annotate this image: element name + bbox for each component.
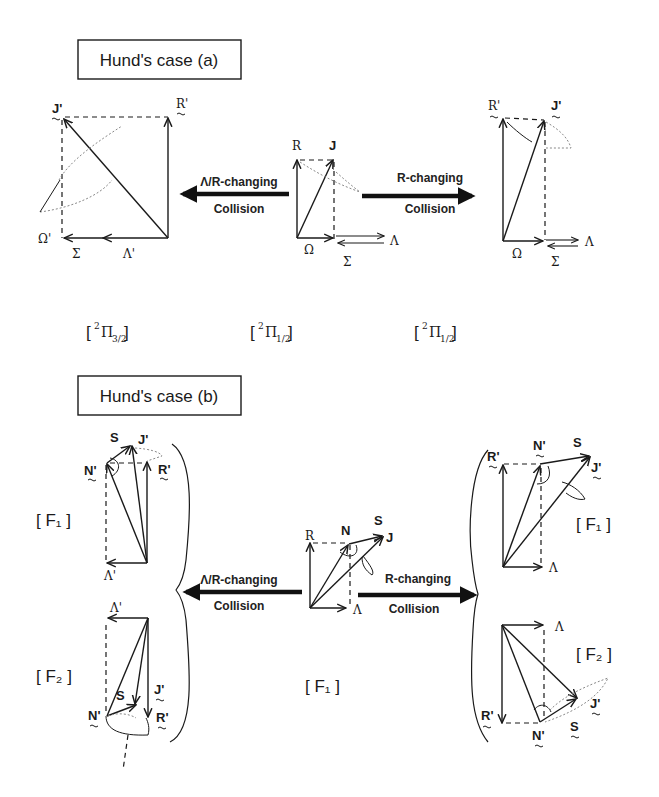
label-N-prime: N' bbox=[84, 463, 96, 478]
svg-text:[: [ bbox=[250, 323, 255, 342]
svg-text:]: ] bbox=[288, 323, 293, 342]
label-Lambda-prime: Λ' bbox=[103, 569, 116, 583]
label-S: S bbox=[116, 688, 125, 703]
label-N-prime: N' bbox=[532, 728, 544, 743]
case-b-right-bottom-F2: Λ R' N' S J' [ F₂ ] bbox=[481, 620, 612, 747]
label-N: N bbox=[341, 523, 350, 538]
case-b-section: Hund's case (b) S J' N' R' Λ' [ F₁ ] bbox=[36, 376, 612, 770]
case-b-right-collision-arrow: R-changing Collision bbox=[358, 572, 474, 616]
case-b-title-box: Hund's case (b) bbox=[78, 376, 241, 415]
label-R-prime: R' bbox=[158, 462, 170, 477]
label-Omega-prime: Ω' bbox=[38, 232, 51, 246]
state-F1: [ F₁ ] bbox=[576, 515, 611, 534]
label-Sigma: Σ bbox=[551, 255, 559, 269]
label-R-prime: R' bbox=[156, 710, 168, 725]
label-R-prime: R' bbox=[487, 449, 499, 464]
case-a-state-right: [ 2 Π 1/2 ] bbox=[414, 321, 457, 344]
svg-text:]: ] bbox=[452, 323, 457, 342]
label-J-prime: J' bbox=[591, 460, 601, 475]
J-vector bbox=[64, 119, 168, 238]
label-S: S bbox=[573, 435, 582, 450]
case-a-state-left: [ 2 Π 3/2 ] bbox=[86, 321, 129, 344]
arrow-label-line2: Collision bbox=[214, 202, 265, 216]
label-Omega: Ω bbox=[512, 247, 522, 261]
label-Sigma: Σ bbox=[343, 255, 351, 269]
case-a-left-collision-arrow: Λ/R-changing Collision bbox=[183, 175, 289, 216]
svg-text:2: 2 bbox=[258, 321, 264, 331]
svg-text:[: [ bbox=[414, 323, 419, 342]
label-S: S bbox=[570, 719, 579, 734]
hunds-case-diagram: Hund's case (a) J' R' Ω' Σ Λ' Λ/R-changi… bbox=[0, 0, 659, 797]
label-J-prime: J' bbox=[590, 696, 600, 711]
label-R-prime: R' bbox=[176, 97, 188, 111]
svg-text:2: 2 bbox=[422, 321, 428, 331]
label-Lambda: Λ bbox=[554, 620, 564, 634]
label-Lambda-prime: Λ' bbox=[122, 247, 135, 261]
label-J: J bbox=[386, 530, 393, 545]
label-J-prime: J' bbox=[52, 101, 62, 116]
case-a-left-vector-diagram: J' R' Ω' Σ Λ' bbox=[38, 97, 188, 261]
case-b-center-F1: R N S J Λ [ F₁ ] bbox=[305, 513, 393, 696]
label-J: J bbox=[329, 138, 336, 153]
case-b-left-bottom-F2: Λ' S J' N' R' [ F₂ ] bbox=[36, 601, 168, 770]
label-N-prime: N' bbox=[88, 708, 100, 723]
state-F1: [ F₁ ] bbox=[36, 511, 71, 530]
label-J-prime: J' bbox=[551, 98, 561, 113]
label-Lambda: Λ bbox=[389, 234, 399, 248]
label-Sigma: Σ bbox=[72, 247, 80, 261]
arrow-label-line1: Λ/R-changing bbox=[200, 175, 277, 189]
case-a-title: Hund's case (a) bbox=[100, 51, 219, 70]
label-Lambda: Λ bbox=[352, 603, 362, 617]
label-S: S bbox=[110, 430, 119, 445]
case-b-title: Hund's case (b) bbox=[100, 387, 219, 406]
svg-text:[: [ bbox=[86, 323, 91, 342]
label-R-prime: R' bbox=[481, 708, 493, 723]
svg-text:]: ] bbox=[124, 323, 129, 342]
arrow-label-line1: R-changing bbox=[385, 572, 451, 586]
svg-text:2: 2 bbox=[94, 321, 100, 331]
arrow-label-line1: Λ/R-changing bbox=[200, 573, 277, 587]
arrow-label-line1: R-changing bbox=[397, 171, 463, 185]
case-a-title-box: Hund's case (a) bbox=[78, 40, 241, 79]
state-F2: [ F₂ ] bbox=[36, 667, 72, 686]
case-a-state-center: [ 2 Π 1/2 ] bbox=[250, 321, 293, 344]
label-Omega: Ω bbox=[304, 243, 314, 257]
case-b-left-top-F1: S J' N' R' Λ' [ F₁ ] bbox=[36, 430, 170, 583]
label-R: R bbox=[292, 139, 302, 153]
label-R-prime: R' bbox=[488, 99, 500, 113]
case-a-center-vector-diagram: R J Ω Σ Λ bbox=[292, 138, 399, 269]
label-N-prime: N' bbox=[533, 438, 545, 453]
case-a-right-vector-diagram: R' J' Ω Σ Λ bbox=[488, 98, 594, 269]
case-b-right-top-F1: R' N' S J' Λ [ F₁ ] bbox=[487, 435, 611, 575]
label-S: S bbox=[374, 513, 383, 528]
case-b-left-collision-arrow: Λ/R-changing Collision bbox=[186, 573, 302, 613]
state-F2: [ F₂ ] bbox=[576, 645, 612, 664]
state-F1: [ F₁ ] bbox=[305, 677, 340, 696]
label-Lambda: Λ bbox=[548, 561, 558, 575]
arrow-label-line2: Collision bbox=[405, 202, 456, 216]
case-a-section: Hund's case (a) J' R' Ω' Σ Λ' Λ/R-changi… bbox=[38, 40, 594, 344]
label-Lambda-prime: Λ' bbox=[109, 601, 122, 615]
case-a-right-collision-arrow: R-changing Collision bbox=[362, 171, 472, 216]
label-J-prime: J' bbox=[138, 432, 148, 447]
label-J-prime: J' bbox=[154, 682, 164, 697]
arrow-label-line2: Collision bbox=[214, 599, 265, 613]
label-R: R bbox=[305, 529, 315, 543]
arrow-label-line2: Collision bbox=[389, 602, 440, 616]
label-Lambda: Λ bbox=[584, 235, 594, 249]
